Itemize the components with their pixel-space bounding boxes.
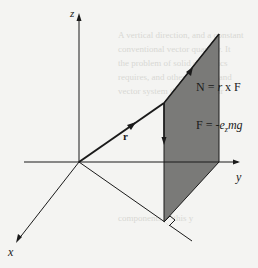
y-axis-arrowhead <box>233 160 240 165</box>
x-axis <box>18 162 79 240</box>
position-vector-r <box>79 103 164 162</box>
z-axis-label: z <box>70 7 74 19</box>
torque-equation-label: N = r x F <box>196 80 241 95</box>
z-axis-arrowhead <box>77 13 82 21</box>
force-equation-label: F = -ezmg <box>196 118 243 134</box>
torque-rest: x F <box>222 80 241 94</box>
force-mg: mg <box>228 118 243 132</box>
torque-lhs: N = <box>196 80 217 94</box>
y-axis-label: y <box>236 170 241 185</box>
force-lhs: F = - <box>196 118 219 132</box>
r-label: r <box>123 130 128 142</box>
x-axis-label: x <box>8 245 13 260</box>
